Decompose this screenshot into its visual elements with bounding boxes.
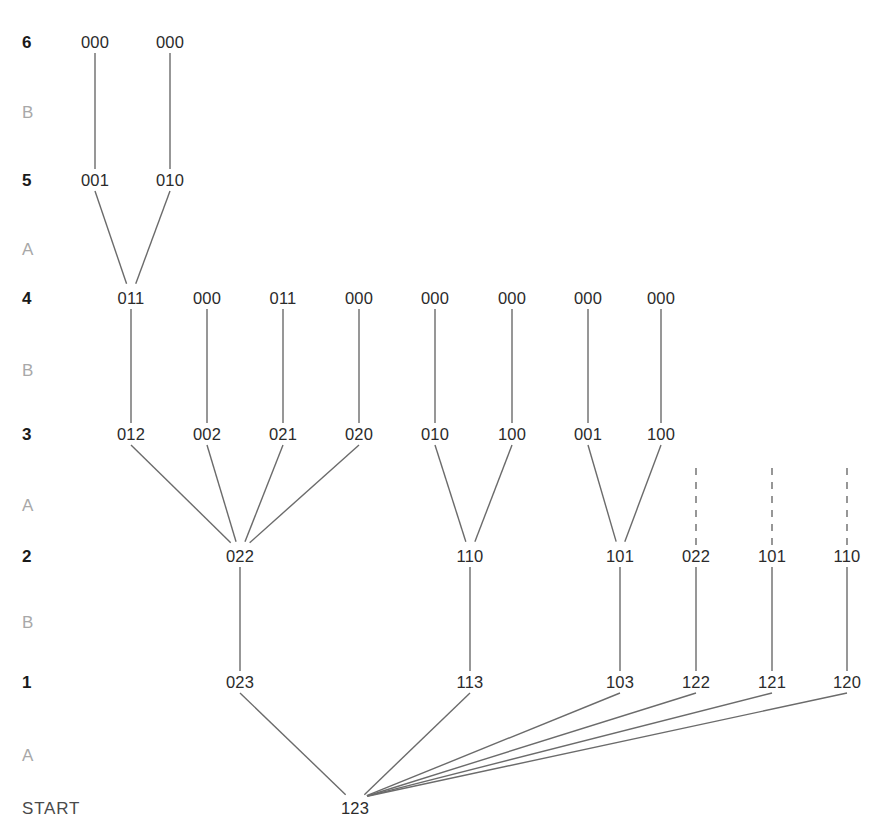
tree-node: 021	[269, 426, 297, 443]
tree-node: 101	[758, 548, 786, 565]
tree-node: 022	[226, 548, 254, 565]
tree-edge	[435, 445, 466, 542]
tree-node: 012	[117, 426, 145, 443]
tree-edge	[367, 693, 620, 796]
tree-edge	[364, 693, 470, 795]
tree-edge	[625, 445, 661, 542]
tree-edge	[95, 191, 127, 284]
tree-node: 123	[341, 800, 369, 817]
tree-node: 100	[498, 426, 526, 443]
axis-label-phA3: A	[22, 241, 34, 258]
tree-node: 121	[758, 674, 786, 691]
edge-layer	[0, 0, 883, 838]
tree-node: 103	[606, 674, 634, 691]
axis-label-phA2: A	[22, 497, 34, 514]
axis-label-lvl2: 2	[22, 548, 32, 565]
axis-label-lvl3: 3	[22, 426, 32, 443]
tree-node: 001	[81, 172, 109, 189]
tree-edge	[250, 445, 359, 543]
axis-label-lvl4: 4	[22, 290, 32, 307]
tree-node: 101	[606, 548, 634, 565]
axis-label-start: START	[22, 800, 80, 817]
axis-label-lvl6: 6	[22, 34, 32, 51]
axis-label-phB1: B	[22, 614, 34, 631]
axis-label-phB2: B	[22, 362, 34, 379]
tree-node: 122	[682, 674, 710, 691]
tree-edge	[131, 445, 231, 543]
tree-node: 000	[345, 290, 373, 307]
tree-node: 011	[118, 290, 145, 307]
tree-node: 120	[833, 674, 861, 691]
axis-label-phB3: B	[22, 104, 34, 121]
tree-node: 002	[193, 426, 221, 443]
tree-edge	[207, 445, 236, 542]
tree-node: 110	[834, 548, 861, 565]
tree-node: 010	[156, 172, 184, 189]
tree-edge	[367, 693, 772, 796]
tree-edge	[240, 693, 346, 795]
tree-node: 023	[226, 674, 254, 691]
tree-node: 000	[498, 290, 526, 307]
axis-label-phA1: A	[22, 747, 34, 764]
tree-node: 000	[574, 290, 602, 307]
tree-node: 000	[81, 34, 109, 51]
tree-node: 000	[421, 290, 449, 307]
axis-label-lvl1: 1	[22, 674, 32, 691]
tree-node: 113	[457, 674, 484, 691]
diagram-canvas: 6B5A4B3A2B1ASTART 0000000010100110000110…	[0, 0, 883, 838]
tree-node: 100	[647, 426, 675, 443]
tree-node: 011	[270, 290, 297, 307]
tree-node: 000	[193, 290, 221, 307]
tree-node: 022	[682, 548, 710, 565]
axis-label-lvl5: 5	[22, 172, 32, 189]
tree-edge	[367, 693, 847, 796]
tree-node: 110	[457, 548, 484, 565]
tree-node: 010	[421, 426, 449, 443]
tree-node: 020	[345, 426, 373, 443]
tree-edge	[136, 191, 170, 284]
tree-edge	[245, 445, 283, 542]
tree-node: 000	[647, 290, 675, 307]
tree-edge	[475, 445, 512, 542]
tree-edge	[588, 445, 616, 542]
tree-node: 001	[574, 426, 602, 443]
tree-node: 000	[156, 34, 184, 51]
